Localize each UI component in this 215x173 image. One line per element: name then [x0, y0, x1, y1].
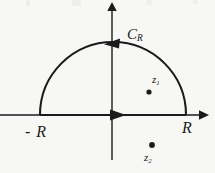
pole-lower-label-subscript: 2 [148, 157, 151, 164]
pole-lower-label: z2 [144, 152, 152, 164]
pole-upper-label-subscript: 1 [156, 79, 159, 86]
imaginary-axis-arrowhead-icon [107, 2, 116, 11]
contour-label-subscript: R [137, 33, 143, 43]
contour-label: CR [127, 27, 143, 43]
right-endpoint-label: R [182, 120, 192, 136]
pole-lower-dot [149, 142, 155, 148]
real-segment-direction-arrowhead-icon [110, 110, 126, 121]
pole-upper-label: z1 [152, 74, 160, 86]
complex-contour-figure: CR - R R z1 z2 [0, 0, 215, 173]
contour-diagram-drawing [0, 0, 215, 173]
contour-label-base: C [127, 26, 137, 42]
pole-upper-dot [146, 89, 151, 94]
left-endpoint-label: - R [25, 124, 47, 140]
real-axis-arrowhead-icon [199, 110, 209, 120]
semicircle-contour-arc [40, 42, 186, 115]
